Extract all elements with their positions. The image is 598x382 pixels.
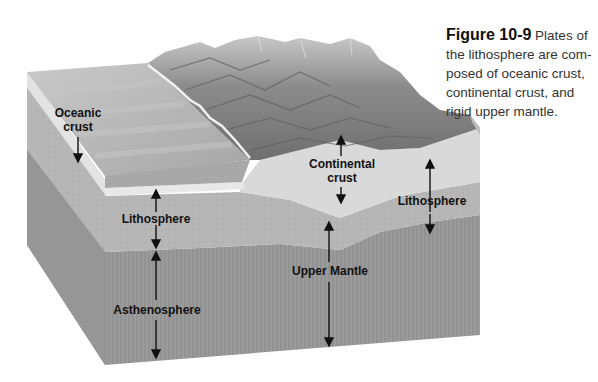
- label-continental-crust-line2: crust: [306, 171, 378, 185]
- label-oceanic-crust: Oceanic crust: [52, 106, 104, 134]
- label-lithosphere-right: Lithosphere: [396, 194, 468, 208]
- figure-caption: Figure 10-9 Plates of the lithosphere ar…: [446, 25, 596, 121]
- figure-number: Figure 10-9: [446, 26, 531, 43]
- label-continental-crust-line1: Continental: [306, 157, 378, 171]
- label-continental-crust: Continental crust: [306, 157, 378, 185]
- label-asthenosphere: Asthenosphere: [112, 303, 202, 317]
- label-oceanic-crust-line1: Oceanic: [52, 106, 104, 120]
- label-oceanic-crust-line2: crust: [52, 120, 104, 134]
- label-lithosphere-left: Lithosphere: [120, 212, 192, 226]
- label-upper-mantle: Upper Mantle: [290, 264, 370, 278]
